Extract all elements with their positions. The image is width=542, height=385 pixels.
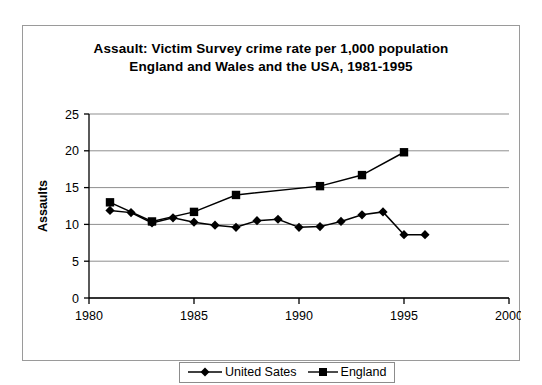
data-point-marker-square [148,217,156,225]
data-point-marker-square [316,182,324,190]
legend-label-united-sates: United Sates [225,365,297,379]
legend-entry-england[interactable]: England [308,365,387,379]
data-point-marker-square [358,171,366,179]
y-axis-tick-label: 15 [65,181,79,195]
data-point-marker-diamond [189,218,198,227]
data-point-marker-square [232,191,240,199]
series-line-england [110,152,404,221]
chart-frame: Assault: Victim Survey crime rate per 1,… [22,25,520,361]
x-axis-tick-label: 1980 [75,309,103,323]
plot-area: 051015202519801985199019952000Assaults [23,26,521,362]
legend-marker-square-icon [308,366,338,378]
data-point-marker-diamond [420,230,429,239]
data-point-marker-diamond [105,206,114,215]
legend-marker-diamond-icon [188,366,222,378]
series-line-united-sates [110,210,425,234]
data-point-marker-diamond [315,222,324,231]
x-axis-tick-label: 1995 [390,309,418,323]
y-axis-tick-label: 10 [65,218,79,232]
y-axis-tick-label: 0 [72,292,79,306]
data-point-marker-square [400,148,408,156]
y-axis-title: Assaults [36,180,50,232]
line-chart-svg: 051015202519801985199019952000Assaults [23,26,521,362]
data-point-marker-diamond [357,210,366,219]
x-axis-tick-label: 1990 [285,309,313,323]
legend-entry-united-sates[interactable]: United Sates [188,365,297,379]
y-axis-tick-label: 25 [65,108,79,122]
data-point-marker-square [106,198,114,206]
legend-label-england: England [341,365,387,379]
y-axis-tick-label: 5 [72,255,79,269]
data-point-marker-diamond [210,221,219,230]
chart-legend: United Sates England [179,362,395,383]
data-point-marker-diamond [273,215,282,224]
data-point-marker-square [190,208,198,216]
y-axis-tick-label: 20 [65,144,79,158]
x-axis-tick-label: 2000 [495,309,521,323]
x-axis-tick-label: 1985 [180,309,208,323]
